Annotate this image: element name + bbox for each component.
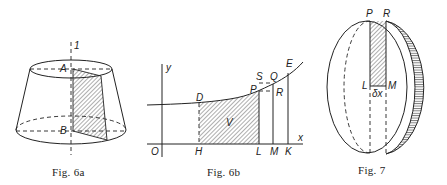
point-p-label: P bbox=[250, 84, 257, 95]
point-q-label: Q bbox=[270, 71, 278, 82]
delta-x-label: δx bbox=[372, 88, 384, 99]
point-p-label: P bbox=[366, 8, 373, 19]
point-d-label: D bbox=[196, 92, 203, 103]
origin-label: O bbox=[151, 146, 159, 157]
figure-6a: 1 A B Fig. 6a bbox=[16, 40, 126, 178]
point-l-label: L bbox=[362, 80, 368, 91]
point-m-label: M bbox=[270, 146, 279, 157]
point-h-label: H bbox=[195, 146, 203, 157]
point-k-label: K bbox=[285, 146, 293, 157]
point-l-label: L bbox=[256, 146, 262, 157]
caption-fig-6a: Fig. 6a bbox=[52, 166, 85, 178]
point-e-label: E bbox=[286, 58, 293, 69]
figure-6b: y x O D P S Q R E V H L M K Fig. 6b bbox=[147, 58, 304, 178]
right-side bbox=[112, 69, 126, 130]
caption-fig-6b: Fig. 6b bbox=[207, 166, 240, 178]
caption-fig-7: Fig. 7 bbox=[358, 164, 386, 176]
axis-label: 1 bbox=[74, 40, 80, 51]
point-s-label: S bbox=[256, 71, 263, 82]
shaded-section bbox=[73, 69, 107, 140]
point-b-label: B bbox=[60, 125, 67, 136]
figure-7: P R L M δx Fig. 7 bbox=[327, 8, 424, 176]
point-m-label: M bbox=[388, 80, 397, 91]
point-a-label: A bbox=[59, 63, 67, 74]
x-axis-label: x bbox=[297, 132, 304, 143]
point-r-label: R bbox=[383, 8, 390, 19]
point-r-label: R bbox=[276, 87, 283, 98]
shaded-strip bbox=[370, 21, 386, 86]
y-axis-label: y bbox=[165, 62, 172, 73]
